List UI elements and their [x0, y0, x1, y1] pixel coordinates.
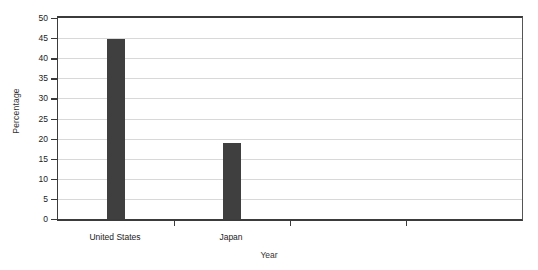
y-axis-tick-label: 50 [39, 13, 48, 23]
y-axis-title: Percentage [8, 0, 24, 221]
x-axis-tick [174, 219, 175, 226]
y-axis-tick [51, 78, 58, 79]
y-axis-tick-label: 15 [39, 154, 48, 164]
gridline [58, 58, 522, 59]
y-axis-tick [51, 38, 58, 39]
gridline [58, 98, 522, 99]
bar [107, 39, 125, 219]
y-axis-tick [51, 139, 58, 140]
y-axis-tick [51, 98, 58, 99]
x-axis-tick [406, 219, 407, 226]
gridline [58, 119, 522, 120]
x-axis-tick [290, 219, 291, 226]
plot-area: 05101520253035404550 [57, 16, 523, 221]
y-axis-tick-label: 30 [39, 93, 48, 103]
y-axis-tick-label: 25 [39, 114, 48, 124]
y-axis-title-text: Percentage [11, 88, 21, 133]
y-axis-tick-label: 10 [39, 174, 48, 184]
gridline [58, 179, 522, 180]
y-axis-tick-label: 40 [39, 53, 48, 63]
x-axis-title: Year [0, 250, 538, 260]
gridline [58, 78, 522, 79]
y-axis-tick-label: 0 [43, 214, 48, 224]
y-axis-tick [51, 58, 58, 59]
y-axis-tick-label: 35 [39, 73, 48, 83]
y-axis-tick-label: 20 [39, 134, 48, 144]
y-axis-tick [51, 18, 58, 19]
x-axis-category-label: Japan [219, 232, 242, 242]
gridlines [58, 18, 522, 219]
gridline [58, 199, 522, 200]
x-axis-title-text: Year [260, 250, 277, 260]
x-axis-category-label: United States [89, 232, 140, 242]
y-axis-tick [51, 219, 58, 220]
gridline [58, 139, 522, 140]
y-axis-tick-label: 5 [43, 194, 48, 204]
bar [223, 143, 241, 219]
y-axis-tick-label: 45 [39, 33, 48, 43]
y-axis-tick [51, 119, 58, 120]
gridline [58, 159, 522, 160]
gridline [58, 38, 522, 39]
y-axis-tick [51, 199, 58, 200]
y-axis-tick [51, 179, 58, 180]
y-axis-tick [51, 159, 58, 160]
bar-chart-figure: Percentage 05101520253035404550 United S… [0, 0, 538, 270]
